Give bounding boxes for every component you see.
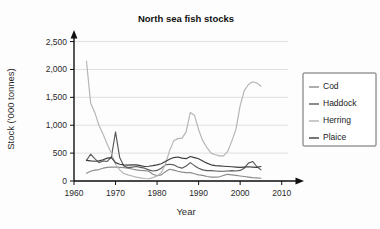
series-group — [86, 61, 260, 179]
x-tick-label-1: 1970 — [106, 188, 125, 198]
y-axis-tick-labels: 05001,0001,5002,0002,500 — [46, 37, 68, 186]
legend-label-herring[interactable]: Herring — [323, 115, 351, 125]
legend-label-plaice[interactable]: Plaice — [323, 132, 346, 142]
chart-figure: 05001,0001,5002,0002,500 196019701980199… — [0, 0, 380, 229]
x-tick-label-5: 2010 — [272, 188, 291, 198]
legend-label-haddock[interactable]: Haddock — [323, 98, 357, 108]
x-tick-label-3: 1990 — [189, 188, 208, 198]
y-tick-label-1: 500 — [53, 148, 67, 158]
series-line-haddock — [86, 132, 260, 171]
gridlines — [74, 42, 288, 181]
x-axis-title: Year — [176, 206, 195, 217]
x-tick-label-2: 1980 — [148, 188, 167, 198]
y-tick-label-5: 2,500 — [46, 37, 68, 47]
series-line-herring — [86, 61, 260, 179]
y-tick-label-3: 1,500 — [46, 92, 68, 102]
x-axis-arrowhead — [296, 178, 305, 185]
series-line-cod — [86, 167, 260, 178]
chart-legend[interactable]: CodHaddockHerringPlaice — [303, 73, 376, 146]
y-tick-label-4: 2,000 — [46, 64, 68, 74]
x-tick-label-0: 1960 — [65, 188, 84, 198]
y-tick-label-0: 0 — [62, 176, 67, 186]
x-tick-label-4: 2000 — [231, 188, 250, 198]
y-axis-arrowhead — [71, 30, 78, 39]
chart-title: North sea fish stocks — [138, 13, 234, 24]
y-axis-title: Stock ('000 tonnes) — [5, 68, 16, 150]
x-axis-tick-labels: 196019701980199020002010 — [65, 188, 292, 198]
legend-label-cod[interactable]: Cod — [323, 81, 339, 91]
y-tick-label-2: 1,000 — [46, 120, 68, 130]
line-chart: 05001,0001,5002,0002,500 196019701980199… — [0, 0, 380, 229]
